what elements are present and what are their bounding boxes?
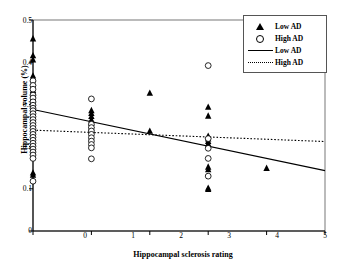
scatter-plot-figure: Hippocampal volume (%) Hippocampal scler… <box>0 0 338 269</box>
open-circle-icon <box>247 32 273 44</box>
data-points <box>30 35 270 192</box>
dotted-line-icon <box>247 56 273 68</box>
legend-item-high-ad-line: High AD <box>247 56 323 68</box>
legend-label: High AD <box>273 58 303 67</box>
trend-lines <box>33 109 325 170</box>
legend-item-low-ad-marker: Low AD <box>247 20 323 32</box>
legend-label: Low AD <box>273 22 301 31</box>
legend: Low AD High AD Low AD High AD <box>243 15 327 73</box>
legend-item-low-ad-line: Low AD <box>247 44 323 56</box>
legend-label: Low AD <box>273 46 301 55</box>
legend-label: High AD <box>273 34 303 43</box>
filled-triangle-icon <box>247 20 273 32</box>
legend-item-high-ad-marker: High AD <box>247 32 323 44</box>
solid-line-icon <box>247 44 273 56</box>
